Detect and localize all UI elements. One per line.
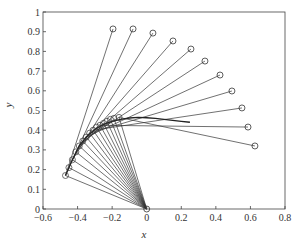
- y-tick-label: 1: [35, 7, 40, 18]
- x-tick-label: −0.2: [103, 212, 121, 223]
- y-tick-label: 0.3: [28, 144, 41, 155]
- first-link: [86, 137, 146, 209]
- y-axis-label: y: [2, 102, 14, 108]
- x-tick-label: 0: [144, 212, 149, 223]
- first-link: [119, 117, 147, 209]
- x-axis-label: x: [141, 228, 147, 240]
- first-link: [90, 133, 147, 209]
- y-tick-label: 0.6: [28, 85, 41, 96]
- first-link: [79, 146, 146, 209]
- y-tick-label: 0.1: [28, 184, 41, 195]
- x-tick-label: 0.4: [210, 212, 223, 223]
- x-tick-label: 0.2: [175, 212, 188, 223]
- x-tick-label: 0.8: [279, 212, 292, 223]
- y-tick-label: 0.5: [28, 105, 41, 116]
- y-tick-label: 0.8: [28, 46, 41, 57]
- y-tick-label: 0.9: [28, 26, 41, 37]
- y-tick-label: 0.2: [28, 164, 41, 175]
- y-tick-label: 0.4: [28, 125, 41, 136]
- plot-frame: [43, 12, 285, 209]
- second-link: [65, 29, 113, 176]
- first-link: [104, 123, 147, 209]
- y-tick-label: 0.7: [28, 66, 41, 77]
- x-axis-ticks: −0.6−0.4−0.200.20.40.60.8: [34, 206, 291, 223]
- y-tick-label: 0: [35, 204, 40, 215]
- pendulum-chart: −0.6−0.4−0.200.20.40.60.8 00.10.20.30.40…: [0, 0, 299, 243]
- x-tick-label: −0.4: [69, 212, 87, 223]
- x-tick-label: 0.6: [244, 212, 257, 223]
